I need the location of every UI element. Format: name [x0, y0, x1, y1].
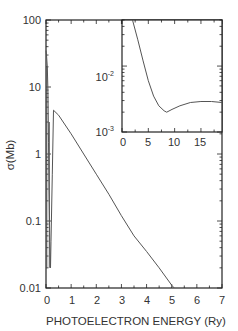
- x-tick-5: 5: [169, 294, 175, 306]
- inset-x-tick-15: 15: [194, 136, 206, 148]
- x-tick-2: 2: [94, 294, 100, 306]
- y-tick-1: 1: [35, 148, 41, 160]
- x-tick-6: 6: [194, 294, 200, 306]
- inset-x-tick-10: 10: [168, 136, 180, 148]
- y-tick-10: 10: [29, 81, 41, 93]
- y-tick-0.1: 0.1: [26, 215, 41, 227]
- y-tick-0.01: 0.01: [20, 282, 41, 294]
- inset-x-tick-0: 0: [120, 136, 126, 148]
- x-tick-4: 4: [144, 294, 150, 306]
- inset-x-tick-5: 5: [145, 136, 151, 148]
- chart: 100 10 1 0.1 0.01 0 1 2 3 4 5 6 7 PHOTOE…: [0, 0, 238, 331]
- inset-y-tick-1e-2: 10-2: [96, 70, 115, 83]
- x-tick-0: 0: [44, 294, 50, 306]
- x-tick-1: 1: [69, 294, 75, 306]
- y-axis-title: σ(Mb): [4, 139, 16, 170]
- x-tick-3: 3: [119, 294, 125, 306]
- x-axis-title: PHOTOELECTRON ENERGY (Ry): [46, 315, 226, 327]
- x-tick-7: 7: [219, 294, 225, 306]
- x-tick-labels: 0 1 2 3 4 5 6 7: [44, 294, 225, 306]
- inset-y-tick-1e-3: 10-3: [96, 125, 115, 138]
- y-tick-100: 100: [23, 14, 41, 26]
